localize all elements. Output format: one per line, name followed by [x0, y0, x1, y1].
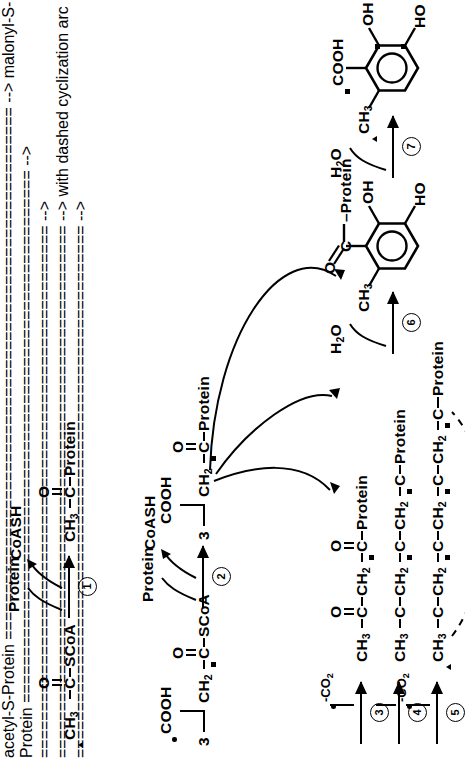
- step-badge-1: 1: [78, 577, 97, 596]
- tetraketide-thioester: Protein: [430, 341, 446, 396]
- double-bond-b: [186, 443, 196, 445]
- reaction-arrow-5: [436, 682, 438, 744]
- orsellinic-ho: HO: [412, 4, 428, 28]
- bond: [203, 454, 205, 463]
- double-bond-b: [344, 542, 354, 544]
- aryl-protein-ho: HO: [412, 182, 428, 206]
- reaction-arrow-6: [392, 292, 394, 354]
- orsellinic-oh: OH: [360, 2, 376, 26]
- bond: [399, 487, 401, 496]
- bond: [437, 531, 439, 540]
- double-bond-a: [186, 448, 196, 450]
- malonyl-protein-carbonyl-c: C: [196, 442, 212, 453]
- tetraketide-c1: C: [430, 607, 446, 618]
- byproduct-coash-2: CoASH: [142, 496, 158, 550]
- reagent-protein-2: Protein: [140, 547, 156, 602]
- malonyl-coa-oxygen: O: [170, 647, 186, 659]
- malonyl-protein-count: 3: [196, 531, 212, 540]
- acetyl-coa-methyl: CH3: [62, 711, 79, 740]
- bond: [69, 690, 71, 699]
- tetraketide-c4: C: [430, 409, 446, 420]
- bond: [203, 432, 205, 441]
- diketide-c1: C: [354, 607, 370, 618]
- tetraketide-methyl: CH3: [430, 633, 447, 662]
- reagent-water-6: H2O: [328, 324, 345, 354]
- diketide-c2: C: [354, 541, 370, 552]
- bond: [399, 553, 401, 562]
- double-bond-a: [186, 654, 196, 656]
- bond: [361, 531, 363, 540]
- step-badge-2: 2: [212, 567, 231, 586]
- malonyl-protein-cooh: COOH: [158, 477, 174, 524]
- bond: [437, 619, 439, 628]
- triketide-ch2-a: CH2: [392, 567, 409, 596]
- triketide-c3: C: [392, 475, 408, 486]
- tetraketide-ch2-c: CH2: [430, 435, 447, 464]
- bond: [437, 597, 439, 606]
- malonyl-coa-cooh: COOH: [158, 687, 174, 734]
- malonyl-coa-carbonyl-c: C: [196, 648, 212, 659]
- diketide-o2: O: [328, 540, 344, 552]
- triketide-methyl: CH3: [392, 633, 409, 662]
- bond: [437, 553, 439, 562]
- bond: [203, 710, 205, 732]
- acetyl-coa-scoa: SCoA: [62, 624, 78, 667]
- reaction-arrow-3: [360, 682, 362, 744]
- double-bond-b: [52, 488, 62, 490]
- diketide-ch2: CH2: [354, 567, 371, 596]
- double-bond-a: [52, 684, 62, 686]
- byproduct-coash-1: CoASH: [8, 506, 24, 560]
- triketide-ch2-b: CH2: [392, 501, 409, 530]
- triketide-c2: C: [392, 541, 408, 552]
- acetyl-protein-thioester: Protein: [62, 421, 78, 476]
- bond: [399, 597, 401, 606]
- tetraketide-ch2-a: CH2: [430, 567, 447, 596]
- bond: [361, 553, 363, 562]
- aryl-protein-methyl: CH3: [356, 283, 373, 312]
- orsellinic-methyl: CH3: [356, 105, 373, 134]
- malonyl-protein-thioester: Protein: [196, 376, 212, 431]
- double-bond-b: [186, 649, 196, 651]
- bond: [361, 597, 363, 606]
- tetraketide-c3: C: [430, 475, 446, 486]
- double-bond-a: [344, 613, 354, 615]
- reaction-arrow-2: [202, 546, 204, 608]
- bond: [203, 504, 205, 526]
- tetraketide-c2: C: [430, 541, 446, 552]
- bond: [69, 499, 71, 508]
- bond: [399, 531, 401, 540]
- bond: [437, 397, 439, 408]
- acetyl-protein-oxygen: O: [36, 486, 52, 498]
- aryl-protein-oh: OH: [360, 180, 376, 204]
- reagent-protein-1: Protein: [6, 557, 22, 612]
- acetyl-coa-oxygen: O: [36, 677, 52, 689]
- double-bond-a: [344, 547, 354, 549]
- diketide-methyl: CH3: [354, 633, 371, 662]
- aryl-protein-carbonyl-c: C: [338, 241, 354, 252]
- reagent-tick-4: [376, 704, 396, 706]
- acetyl-protein-carbonyl-c: C: [62, 487, 78, 498]
- bond: [69, 477, 71, 486]
- double-bond-a: [52, 493, 62, 495]
- double-bond-b: [52, 679, 62, 681]
- bond: [437, 487, 439, 496]
- reaction-arrow-7: [392, 116, 394, 178]
- aryl-protein-oxygen: O: [322, 262, 338, 274]
- byproduct-co2-3: -CO2: [318, 673, 335, 702]
- byproduct-co2-5: -CO2: [394, 673, 411, 702]
- tetraketide-ch2-b: CH2: [430, 501, 447, 530]
- bond: [180, 710, 204, 712]
- diketide-thioester: Protein: [354, 475, 370, 530]
- malonyl-coa-ch2: CH2: [196, 674, 213, 703]
- bond: [437, 465, 439, 474]
- malonyl-protein-ch2: CH2: [196, 468, 213, 497]
- reaction-arrow-1: [68, 556, 70, 618]
- reagent-water-7: H2O: [328, 148, 345, 178]
- bond: [180, 504, 204, 506]
- bond: [69, 668, 71, 677]
- triketide-thioester: Protein: [392, 409, 408, 464]
- acetyl-coa-carbonyl-c: C: [62, 678, 78, 689]
- malonyl-protein-oxygen: O: [170, 441, 186, 453]
- orsellinic-cooh: COOH: [330, 39, 346, 86]
